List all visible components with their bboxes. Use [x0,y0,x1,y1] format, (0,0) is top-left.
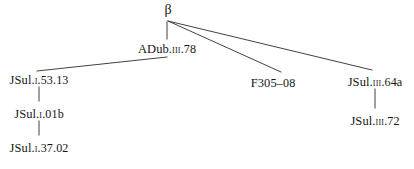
node-jsul-iii-72-suffix: .72 [384,114,399,128]
node-jsul-i-53-prefix: JSul. [10,73,35,87]
stemma-diagram: β ADub.III.78 JSul.I.53.13 JSul.I.01b JS… [0,0,414,169]
node-jsul-i-37-suffix: .37.02 [38,141,69,155]
node-adub-iii-78: ADub.III.78 [138,43,196,56]
node-adub-prefix: ADub. [138,42,172,56]
node-jsul-iii-72-roman: III [376,115,385,128]
node-jsul-i-53-suffix: .53.13 [38,73,69,87]
edge-adub-to-jsul1-53 [37,57,167,71]
edge-beta-to-jsul3-64a [168,21,372,70]
node-jsul-iii-64a-prefix: JSul. [348,75,373,89]
node-f305-prefix: F305 [251,76,277,90]
node-jsul-i-01b-suffix: .01b [42,107,64,121]
node-f305-08: F305–08 [251,77,296,90]
node-adub-roman: III [172,43,181,56]
node-jsul-iii-72-prefix: JSul. [350,114,375,128]
node-beta: β [164,3,171,17]
node-jsul-iii-64a: JSul.III.64a [348,76,403,89]
node-jsul-i-01b-prefix: JSul. [14,107,39,121]
caption-strip [0,162,414,169]
node-f305-suffix: –08 [277,76,295,90]
node-adub-suffix: .78 [181,42,196,56]
node-jsul-i-37-02: JSul.I.37.02 [10,142,69,155]
node-jsul-i-37-prefix: JSul. [10,141,35,155]
node-jsul-iii-64a-roman: III [373,76,382,89]
edges-group [37,21,375,135]
node-beta-label: β [164,2,171,17]
node-jsul-iii-64a-suffix: .64a [381,75,402,89]
node-jsul-i-01b: JSul.I.01b [14,108,64,121]
node-jsul-i-53-13: JSul.I.53.13 [10,74,69,87]
node-jsul-iii-72: JSul.III.72 [350,115,399,128]
